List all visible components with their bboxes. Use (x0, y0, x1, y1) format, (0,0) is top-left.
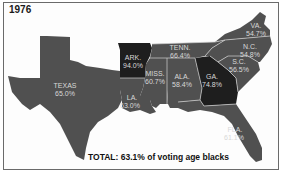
label-florida-value: 61.1% (224, 134, 244, 141)
label-virginia-value: 54.7% (246, 30, 266, 37)
label-south-carolina-name: S.C. (232, 58, 246, 65)
label-alabama-name: ALA. (174, 73, 189, 80)
label-north-carolina-value: 54.8% (240, 51, 260, 58)
label-tennessee-value: 66.4% (170, 52, 190, 59)
label-louisiana-value: 63.0% (120, 102, 140, 109)
southern-states-map: TEXAS 65.0% ARK. 94.0% LA. 63.0% MISS. 6… (0, 0, 283, 174)
label-virginia-name: VA. (251, 22, 262, 29)
label-tennessee-name: TENN. (170, 44, 191, 51)
label-south-carolina-value: 56.5% (229, 66, 249, 73)
label-louisiana-name: LA. (127, 94, 138, 101)
label-florida-name: FLA. (228, 126, 243, 133)
label-alabama-value: 58.4% (172, 81, 192, 88)
label-arkansas-value: 94.0% (123, 62, 143, 69)
state-texas (8, 36, 122, 160)
label-mississippi-name: MISS. (145, 70, 164, 77)
label-mississippi-value: 60.7% (145, 78, 165, 85)
label-arkansas-name: ARK. (125, 54, 141, 61)
label-texas-name: TEXAS (54, 82, 77, 89)
label-georgia-name: GA. (206, 73, 218, 80)
total-caption: TOTAL: 63.1% of voting age blacks (88, 152, 229, 162)
label-north-carolina-name: N.C. (243, 43, 257, 50)
label-texas-value: 65.0% (55, 90, 75, 97)
label-georgia-value: 74.8% (202, 81, 222, 88)
